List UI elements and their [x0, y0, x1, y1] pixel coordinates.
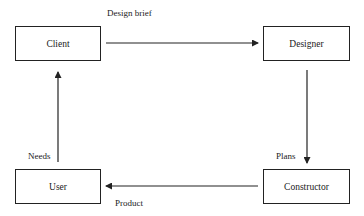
node-user: User	[15, 169, 101, 204]
node-client-label: Client	[46, 39, 69, 49]
node-user-label: User	[49, 182, 67, 192]
edge-label-needs: Needs	[28, 151, 51, 161]
edge-label-design-brief: Design brief	[107, 8, 152, 18]
node-constructor: Constructor	[263, 169, 350, 204]
edge-label-plans: Plans	[276, 151, 296, 161]
node-designer-label: Designer	[289, 39, 323, 49]
node-designer: Designer	[263, 26, 350, 61]
edge-label-product: Product	[115, 198, 143, 208]
node-constructor-label: Constructor	[284, 182, 329, 192]
node-client: Client	[15, 26, 101, 61]
